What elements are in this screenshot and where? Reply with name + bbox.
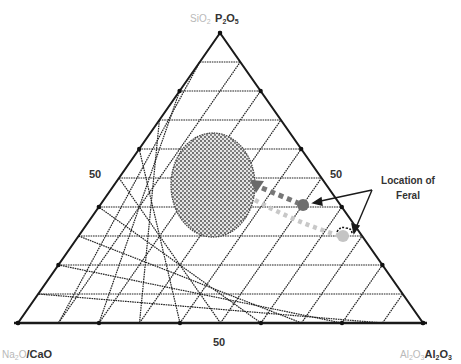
grid-node <box>299 147 303 151</box>
grid-node <box>421 321 425 325</box>
grid-node <box>218 31 222 35</box>
feral-marker-light <box>337 230 349 242</box>
grid-node <box>340 321 344 325</box>
grid-node <box>380 263 384 267</box>
tick-label-left-50: 50 <box>89 168 101 180</box>
stippled-ellipse-region <box>171 133 255 237</box>
vertex-label-bottom-left: Na2O/CaO <box>2 344 52 362</box>
grid-node <box>259 321 263 325</box>
grid-node <box>97 321 101 325</box>
top-bold-label: P2O5 <box>215 12 239 24</box>
tick-label-bottom-50: 50 <box>213 336 225 348</box>
annotation-label: Location of Feral <box>368 173 448 203</box>
tick-label-right-50: 50 <box>330 168 342 180</box>
bottom-right-bold-label: Al2O3 <box>425 348 452 360</box>
vertex-label-bottom-right: Al2O3Al2O3 <box>400 344 452 362</box>
dark-dotted-path <box>250 180 309 211</box>
grid-node <box>16 321 20 325</box>
grid-node <box>56 263 60 267</box>
bottom-right-faint-label: Al2O3 <box>400 349 425 360</box>
grid-node <box>340 205 344 209</box>
bottom-left-faint-label: Na2O <box>2 349 26 360</box>
grid-line <box>302 236 363 323</box>
annotation-arrows <box>313 190 372 233</box>
grid-node <box>97 205 101 209</box>
top-faint-label: SiO2 <box>190 13 211 24</box>
grid-line <box>383 294 403 323</box>
vertex-label-top: SiO2 P2O5 <box>190 8 239 26</box>
annotation-line-2: Feral <box>368 188 448 203</box>
grid-node <box>178 321 182 325</box>
feral-marker-dark <box>297 199 309 211</box>
annotation-line-1: Location of <box>368 173 448 188</box>
bottom-left-bold-label: /CaO <box>26 348 52 360</box>
grid-node <box>137 147 141 151</box>
grid-node <box>258 89 262 93</box>
grid-node <box>177 89 181 93</box>
